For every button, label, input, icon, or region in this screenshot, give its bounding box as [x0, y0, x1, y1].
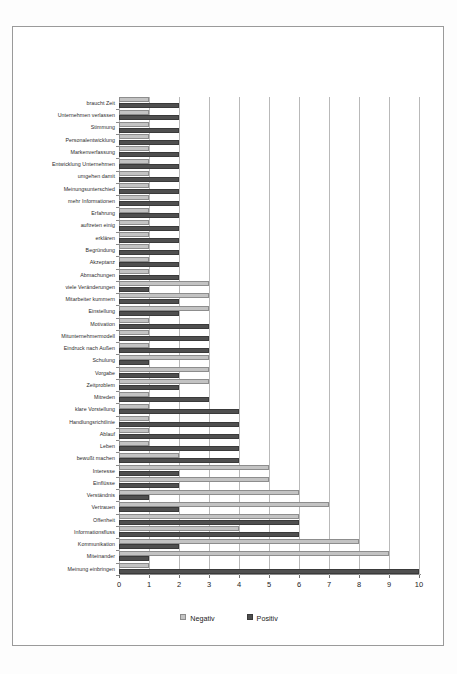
bar-negativ: [119, 490, 299, 495]
plot-wrapper: braucht ZeitUnternehmen verlassenStimmun…: [13, 27, 445, 647]
bar-positiv: [119, 213, 179, 218]
legend-label: Positiv: [257, 614, 278, 623]
category-label: Personalentwicklung: [11, 137, 115, 143]
x-tick-label: 8: [357, 580, 361, 589]
chart-page: braucht ZeitUnternehmen verlassenStimmun…: [0, 0, 457, 674]
bar-positiv: [119, 556, 149, 561]
bar-negativ: [119, 318, 149, 323]
category-label: Entwicklung Unternehmen: [11, 161, 115, 167]
bar-group: [119, 256, 421, 268]
category-label: Zeitproblem: [11, 382, 115, 388]
bar-group: [119, 514, 421, 526]
bar-positiv: [119, 287, 149, 292]
bar-group: [119, 207, 421, 219]
bar-negativ: [119, 232, 149, 237]
bar-negativ: [119, 539, 359, 544]
plot-area: [119, 97, 421, 575]
bar-positiv: [119, 238, 179, 243]
bar-group: [119, 281, 421, 293]
bar-positiv: [119, 250, 179, 255]
legend-label: Negativ: [190, 614, 214, 623]
bar-negativ: [119, 183, 149, 188]
category-label: klare Vorstellung: [11, 406, 115, 412]
bar-group: [119, 428, 421, 440]
chart-frame: braucht ZeitUnternehmen verlassenStimmun…: [12, 26, 444, 646]
bar-negativ: [119, 343, 149, 348]
bar-group: [119, 330, 421, 342]
bar-positiv: [119, 385, 179, 390]
category-label: Vorgabe: [11, 370, 115, 376]
bar-group: [119, 354, 421, 366]
bar-group: [119, 183, 421, 195]
bar-negativ: [119, 195, 149, 200]
bar-group: [119, 195, 421, 207]
category-label: braucht Zeit: [11, 100, 115, 106]
bar-positiv: [119, 507, 179, 512]
bar-negativ: [119, 551, 389, 556]
x-tick-label: 4: [237, 580, 241, 589]
legend-swatch-icon: [247, 614, 253, 620]
bar-group: [119, 244, 421, 256]
bar-group: [119, 489, 421, 501]
bar-negativ: [119, 122, 149, 127]
category-label: Einflüsse: [11, 480, 115, 486]
bar-positiv: [119, 128, 179, 133]
x-tick-mark: [359, 575, 360, 578]
bar-positiv: [119, 177, 179, 182]
x-tick-mark: [299, 575, 300, 578]
bar-positiv: [119, 348, 209, 353]
category-label: Abmachungen: [11, 272, 115, 278]
x-tick-label: 9: [387, 580, 391, 589]
bar-positiv: [119, 569, 419, 574]
bar-negativ: [119, 441, 149, 446]
bar-positiv: [119, 434, 239, 439]
bar-positiv: [119, 189, 179, 194]
bar-positiv: [119, 544, 179, 549]
bar-positiv: [119, 311, 179, 316]
bar-group: [119, 318, 421, 330]
bar-positiv: [119, 140, 179, 145]
legend-item-positiv: Positiv: [247, 613, 278, 623]
bar-positiv: [119, 275, 179, 280]
category-label: auftreten einig: [11, 222, 115, 228]
bar-negativ: [119, 367, 209, 372]
bar-negativ: [119, 306, 209, 311]
bar-group: [119, 477, 421, 489]
bar-positiv: [119, 397, 209, 402]
bar-negativ: [119, 171, 149, 176]
x-tick-mark: [239, 575, 240, 578]
bar-negativ: [119, 110, 149, 115]
category-label: Mitarbeiter kummern: [11, 296, 115, 302]
bar-group: [119, 452, 421, 464]
x-tick-label: 7: [327, 580, 331, 589]
bar-negativ: [119, 502, 329, 507]
x-tick-mark: [269, 575, 270, 578]
bar-negativ: [119, 477, 269, 482]
x-tick-mark: [329, 575, 330, 578]
bar-group: [119, 109, 421, 121]
x-tick-mark: [419, 575, 420, 578]
bar-positiv: [119, 324, 209, 329]
bar-positiv: [119, 458, 239, 463]
bar-positiv: [119, 471, 179, 476]
x-axis-ticks: 012345678910: [119, 575, 421, 597]
bar-group: [119, 403, 421, 415]
bar-negativ: [119, 159, 149, 164]
category-label: Stimmung: [11, 124, 115, 130]
bar-positiv: [119, 483, 179, 488]
category-label: Vertrauen: [11, 504, 115, 510]
bar-group: [119, 550, 421, 562]
category-label: Kommunikation: [11, 541, 115, 547]
bar-positiv: [119, 299, 179, 304]
bar-positiv: [119, 360, 149, 365]
bar-negativ: [119, 208, 149, 213]
x-tick-label: 10: [415, 580, 423, 589]
bar-negativ: [119, 134, 149, 139]
bar-positiv: [119, 336, 209, 341]
x-tick-mark: [149, 575, 150, 578]
category-label: Eindruck nach Außen: [11, 345, 115, 351]
bar-negativ: [119, 97, 149, 102]
bar-positiv: [119, 495, 149, 500]
bar-group: [119, 97, 421, 109]
bar-positiv: [119, 115, 179, 120]
